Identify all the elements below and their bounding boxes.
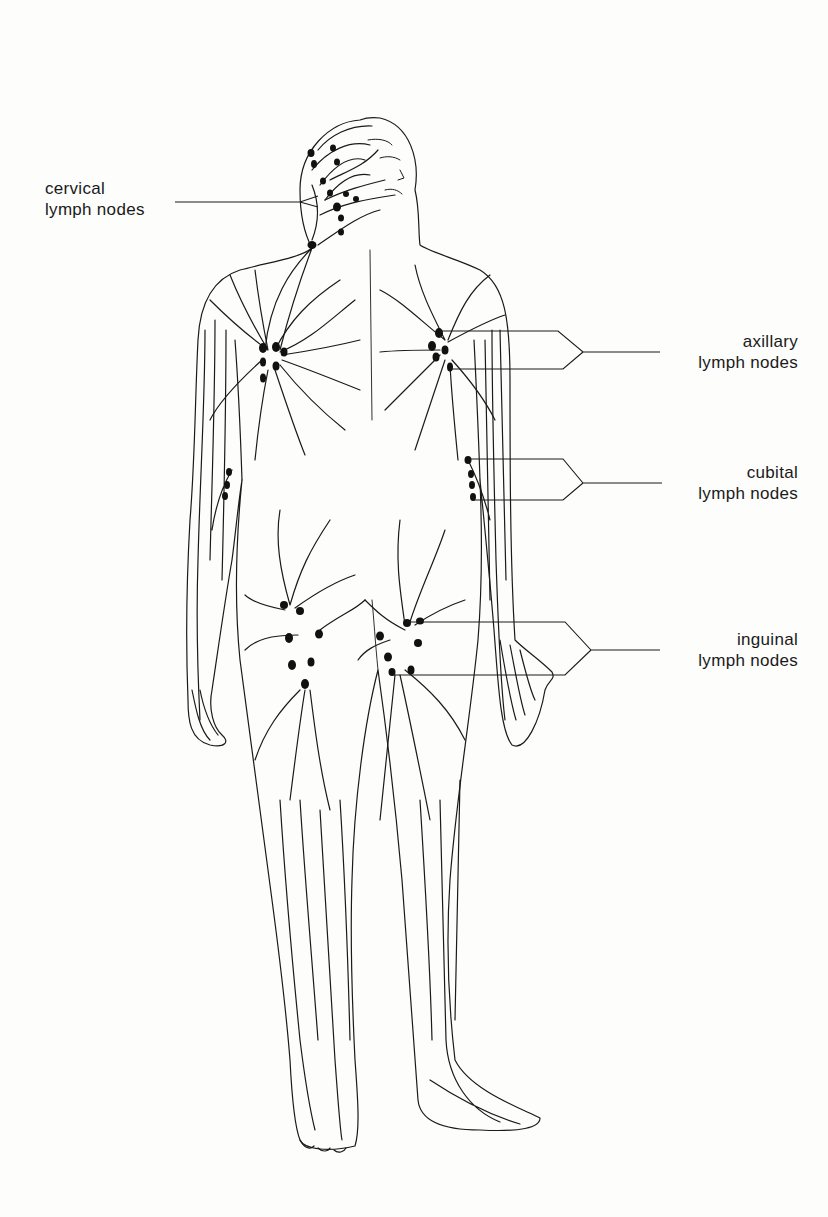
- cervical-leader: [175, 196, 318, 207]
- inguinal-leader: [393, 622, 660, 675]
- cubital-leader: [470, 459, 662, 500]
- cubital-label-line1: cubital: [698, 462, 798, 483]
- inguinal-label-line2: lymph nodes: [698, 650, 798, 671]
- axillary-label-line2: lymph nodes: [698, 352, 798, 373]
- axillary-label-line1: axillary: [698, 331, 798, 352]
- axillary-leader: [440, 331, 660, 369]
- cubital-label: cubital lymph nodes: [698, 462, 798, 504]
- cubital-label-line2: lymph nodes: [698, 483, 798, 504]
- inguinal-label: inguinal lymph nodes: [698, 629, 798, 671]
- cervical-label: cervical lymph nodes: [45, 178, 145, 220]
- axillary-label: axillary lymph nodes: [698, 331, 798, 373]
- inguinal-label-line1: inguinal: [698, 629, 798, 650]
- cervical-label-line1: cervical: [45, 178, 145, 199]
- cervical-label-line2: lymph nodes: [45, 199, 145, 220]
